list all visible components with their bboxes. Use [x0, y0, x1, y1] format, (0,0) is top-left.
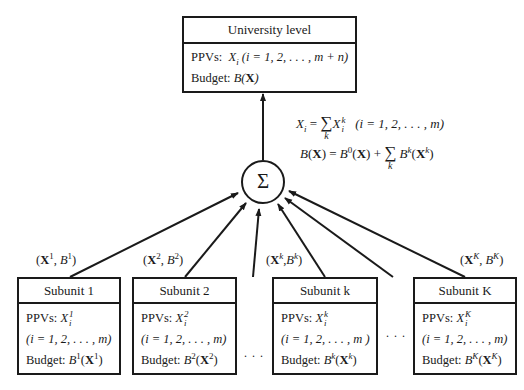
arrow-middle-left	[253, 209, 259, 277]
subunit-1-box: Subunit 1 PPVs: X1i (i = 1, 2, . . . , m…	[17, 277, 121, 375]
subunit-K-range: (i = 1, 2, . . . , m)	[422, 329, 515, 350]
subunit-1-ppvs: PPVs: X1i	[26, 307, 119, 329]
university-level-title: University level	[184, 18, 355, 44]
subunit-1-title: Subunit 1	[19, 279, 119, 304]
equation-budget-sum: B(X) = B0(X) + ∑k Bk(Xk)	[300, 146, 434, 172]
subunit-k-box: Subunit k PPVs: Xki (i = 1, 2, . . . , m…	[272, 277, 378, 375]
budget-label: Budget:	[191, 71, 231, 85]
university-level-box: University level PPVs: Xi (i = 1, 2, . .…	[182, 16, 357, 93]
subunit-K-box: Subunit K PPVs: XKi (i = 1, 2, . . . , m…	[413, 277, 517, 375]
eq2-sup0: 0	[348, 145, 353, 155]
ppvs-subscript: i	[236, 57, 239, 67]
eq2-rhs: B	[400, 146, 408, 161]
subunit-2-body: PPVs: X2i (i = 1, 2, . . . , m) Budget: …	[134, 304, 235, 371]
university-ppvs-row: PPVs: Xi (i = 1, 2, . . . , m + n)	[191, 46, 355, 68]
subunit-K-ppvs: PPVs: XKi	[422, 307, 515, 329]
subunit-1-budget: Budget: B1(X1)	[26, 350, 119, 371]
subunit-K-budget: Budget: BK(XK)	[422, 350, 515, 371]
subunit-2-budget: Budget: B2(X2)	[141, 350, 235, 371]
subunit-2-ppvs: PPVs: X2i	[141, 307, 235, 329]
subunit-K-title: Subunit K	[415, 279, 515, 304]
eq1-equals: =	[310, 116, 317, 131]
university-budget-row: Budget: B(X)	[191, 68, 355, 88]
ppvs-range: (i = 1, 2, . . . , m + n)	[242, 50, 348, 64]
eq1-sum: ∑k	[320, 116, 332, 142]
budget-expression: B(X)	[234, 71, 259, 85]
subunit-k-range: (i = 1, 2, . . . , m )	[281, 329, 376, 350]
eq2-arg-sup: k	[425, 145, 429, 155]
subunit-2-box: Subunit 2 PPVs: X2i (i = 1, 2, . . . , m…	[132, 277, 237, 375]
eq1-rhs: X	[332, 116, 340, 131]
sigma-aggregator-node: Σ	[241, 160, 285, 204]
eq1-lhs: X	[296, 116, 304, 131]
flow-label-k: (Xk,Bk)	[266, 253, 302, 268]
subunit-k-title: Subunit k	[274, 279, 376, 304]
subunit-1-body: PPVs: X1i (i = 1, 2, . . . , m) Budget: …	[19, 304, 119, 371]
equation-ppv-sum: Xi = ∑kXki (i = 1, 2, . . . , m)	[296, 116, 444, 142]
eq1-lhs-sub: i	[304, 124, 307, 134]
ellipsis-left: . . .	[244, 346, 264, 361]
flow-label-2: (X2, B2)	[143, 253, 183, 268]
flow-label-1: (X1, B1)	[36, 253, 76, 268]
ppvs-label: PPVs:	[191, 50, 222, 64]
eq1-range: (i = 1, 2, . . . , m)	[355, 116, 444, 131]
eq2-rhs-sup: k	[408, 145, 412, 155]
flow-label-K: (XK, BK)	[460, 253, 503, 268]
subunit-k-ppvs: PPVs: Xki	[281, 307, 376, 329]
subunit-1-range: (i = 1, 2, . . . , m)	[26, 329, 119, 350]
subunit-2-title: Subunit 2	[134, 279, 235, 304]
eq2-sum: ∑k	[384, 146, 396, 172]
subunit-2-range: (i = 1, 2, . . . , m)	[141, 329, 235, 350]
subunit-k-budget: Budget: Bk(Xk)	[281, 350, 376, 371]
subunit-k-body: PPVs: Xki (i = 1, 2, . . . , m ) Budget:…	[274, 304, 376, 371]
university-level-body: PPVs: Xi (i = 1, 2, . . . , m + n) Budge…	[184, 44, 355, 88]
subunit-K-body: PPVs: XKi (i = 1, 2, . . . , m) Budget: …	[415, 304, 515, 371]
ellipsis-right: . . .	[386, 326, 406, 341]
